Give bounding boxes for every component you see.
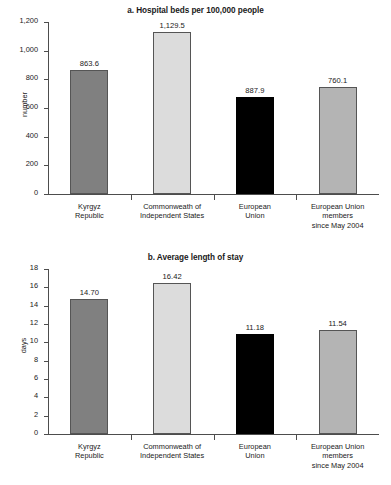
plot-area-b: days 02468101214161814.70KyrgyzRepublic1…	[48, 269, 379, 435]
x-axis-category-line: Republic	[48, 451, 131, 460]
bar[interactable]	[70, 70, 108, 194]
bar-value-label: 863.6	[59, 59, 119, 68]
bar[interactable]	[236, 334, 274, 434]
y-axis-tick-a: 200	[44, 165, 48, 166]
bar[interactable]	[236, 97, 274, 194]
x-axis-category-label: EuropeanUnion	[214, 442, 297, 461]
y-axis-tick-a: 800	[44, 79, 48, 80]
x-axis-category-line: members	[296, 451, 379, 460]
x-axis-category-label: EuropeanUnion	[214, 202, 297, 221]
x-axis-category-line: Commonweath of	[131, 442, 214, 451]
chart-panel-a: a. Hospital beds per 100,000 people numb…	[0, 0, 391, 243]
y-axis-tick-b: 14	[44, 306, 48, 307]
y-axis-tick-label-a: 0	[0, 188, 38, 197]
y-axis-tick-a: 0	[44, 194, 48, 195]
y-axis-tick-a: 400	[44, 137, 48, 138]
x-axis-category-line: Independent States	[131, 211, 214, 220]
bar[interactable]	[70, 299, 108, 434]
y-axis-tick-b: 4	[44, 397, 48, 398]
y-axis-tick-label-b: 10	[0, 336, 38, 345]
plot-area-a: number 02004006008001,0001,200863.6Kyrgy…	[48, 22, 379, 195]
x-axis-category-label: KyrgyzRepublic	[48, 202, 131, 221]
x-axis-category-line: since May 2004	[296, 461, 379, 470]
x-axis-category-label: European Unionmemberssince May 2004	[296, 202, 379, 230]
y-axis-tick-b: 8	[44, 361, 48, 362]
y-axis-tick-label-a: 200	[0, 159, 38, 168]
bar-value-label: 16.42	[142, 272, 202, 281]
bar[interactable]	[153, 32, 191, 194]
y-axis-tick-label-b: 2	[0, 410, 38, 419]
x-axis-category-line: Commonweath of	[131, 202, 214, 211]
bar[interactable]	[153, 283, 191, 434]
x-axis-separator-a	[296, 195, 297, 200]
y-axis-tick-a: 1,200	[44, 22, 48, 23]
x-axis-category-line: since May 2004	[296, 221, 379, 230]
bar[interactable]	[319, 330, 357, 434]
x-axis-category-label: European Unionmemberssince May 2004	[296, 442, 379, 470]
y-axis-tick-label-b: 4	[0, 391, 38, 400]
y-axis-tick-b: 10	[44, 342, 48, 343]
y-axis-tick-label-b: 0	[0, 428, 38, 437]
x-axis-category-line: Union	[214, 451, 297, 460]
x-axis-separator-a	[131, 195, 132, 200]
chart-title-a: a. Hospital beds per 100,000 people	[0, 6, 391, 15]
figure-container: a. Hospital beds per 100,000 people numb…	[0, 0, 391, 485]
bar-value-label: 11.18	[225, 323, 285, 332]
y-axis-tick-label-a: 1,000	[0, 45, 38, 54]
x-axis-category-line: Union	[214, 211, 297, 220]
bar[interactable]	[319, 87, 357, 194]
y-axis-line-b	[48, 269, 49, 435]
x-axis-separator-b	[214, 435, 215, 440]
x-axis-category-line: Kyrgyz	[48, 442, 131, 451]
x-axis-category-line: European	[214, 202, 297, 211]
bar-value-label: 14.70	[59, 288, 119, 297]
x-axis-category-line: Kyrgyz	[48, 202, 131, 211]
y-axis-tick-b: 18	[44, 269, 48, 270]
bar-value-label: 760.1	[308, 76, 368, 85]
bar-value-label: 11.54	[308, 319, 368, 328]
y-axis-tick-label-b: 12	[0, 318, 38, 327]
y-axis-tick-label-b: 16	[0, 281, 38, 290]
y-axis-tick-b: 0	[44, 434, 48, 435]
x-axis-category-line: Republic	[48, 211, 131, 220]
y-axis-tick-label-b: 6	[0, 373, 38, 382]
chart-title-b: b. Average length of stay	[0, 253, 391, 262]
chart-panel-b: b. Average length of stay days 024681012…	[0, 243, 391, 485]
y-axis-tick-label-b: 14	[0, 300, 38, 309]
x-axis-category-line: European Union	[296, 442, 379, 451]
y-axis-tick-label-a: 600	[0, 102, 38, 111]
x-axis-category-line: European Union	[296, 202, 379, 211]
x-axis-separator-b	[296, 435, 297, 440]
y-axis-tick-b: 16	[44, 287, 48, 288]
bar-value-label: 1,129.5	[142, 21, 202, 30]
y-axis-tick-label-b: 8	[0, 355, 38, 364]
x-axis-separator-b	[131, 435, 132, 440]
y-axis-tick-label-a: 800	[0, 73, 38, 82]
y-axis-tick-a: 600	[44, 108, 48, 109]
x-axis-category-label: KyrgyzRepublic	[48, 442, 131, 461]
y-axis-tick-label-a: 400	[0, 131, 38, 140]
x-axis-category-label: Commonweath ofIndependent States	[131, 202, 214, 221]
x-axis-separator-a	[214, 195, 215, 200]
x-axis-category-line: European	[214, 442, 297, 451]
y-axis-tick-b: 2	[44, 416, 48, 417]
y-axis-tick-label-a: 1,200	[0, 16, 38, 25]
bar-value-label: 887.9	[225, 86, 285, 95]
y-axis-tick-a: 1,000	[44, 51, 48, 52]
y-axis-line-a	[48, 22, 49, 195]
y-axis-tick-b: 6	[44, 379, 48, 380]
x-axis-category-line: Independent States	[131, 451, 214, 460]
y-axis-tick-b: 12	[44, 324, 48, 325]
y-axis-tick-label-b: 18	[0, 263, 38, 272]
x-axis-category-line: members	[296, 211, 379, 220]
x-axis-category-label: Commonweath ofIndependent States	[131, 442, 214, 461]
